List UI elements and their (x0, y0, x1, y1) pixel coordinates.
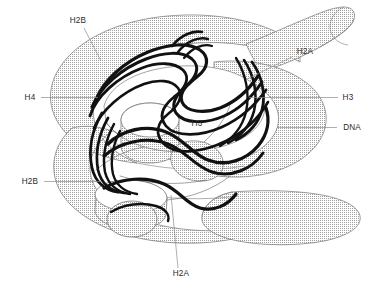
nucleosome-figure: H2B H2A H4 H3 DNA H3 H2B H2A (0, 0, 379, 287)
core-knob-bottom (107, 201, 157, 237)
label-h2b-bottom: H2B (22, 177, 39, 186)
label-h2b-top: H2B (70, 16, 87, 25)
label-h3-center: H3 (192, 119, 203, 128)
label-h2a-right: H2A (297, 47, 314, 56)
label-dna-right: DNA (343, 123, 361, 132)
nucleosome-diagram-canvas: H2B H2A H4 H3 DNA H3 H2B H2A (0, 0, 379, 287)
label-h2a-bottom: H2A (173, 269, 190, 278)
label-h3-right: H3 (343, 93, 354, 102)
dna-free-end-lower (202, 191, 360, 245)
label-h4-left: H4 (25, 93, 36, 102)
